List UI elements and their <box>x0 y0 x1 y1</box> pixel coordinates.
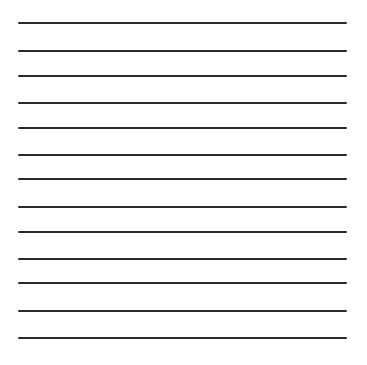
rule-line <box>18 310 347 312</box>
rule-line <box>18 282 347 284</box>
rule-line <box>18 206 347 208</box>
rule-line <box>18 258 347 260</box>
rule-line <box>18 22 347 24</box>
rule-line <box>18 75 347 77</box>
rule-line <box>18 337 347 339</box>
rule-line <box>18 127 347 129</box>
rule-line <box>18 102 347 104</box>
rule-line <box>18 231 347 233</box>
ruled-sheet <box>0 0 367 365</box>
rule-line <box>18 178 347 180</box>
rule-line <box>18 50 347 52</box>
rule-line <box>18 154 347 156</box>
